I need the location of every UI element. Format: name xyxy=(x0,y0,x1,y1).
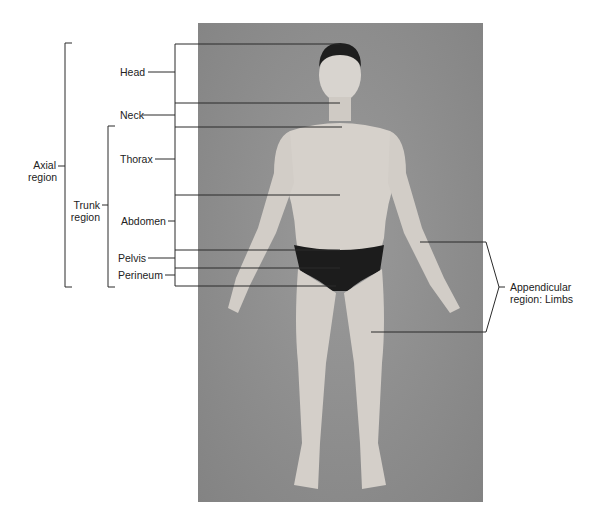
abdomen-label: Abdomen xyxy=(121,215,166,227)
trunk-region-label: Trunk region xyxy=(62,199,100,223)
head-label: Head xyxy=(120,66,145,78)
leader-lines-and-brackets xyxy=(0,0,602,522)
appendicular-region-label: Appendicular region: Limbs xyxy=(510,281,573,305)
perineum-label: Perineum xyxy=(118,269,163,281)
neck-label: Neck xyxy=(120,109,144,121)
appendicular-region-bracket xyxy=(371,242,499,332)
axial-region-bracket xyxy=(65,43,72,287)
pelvis-label: Pelvis xyxy=(118,252,146,264)
trunk-region-bracket xyxy=(108,126,115,287)
thorax-label: Thorax xyxy=(120,153,153,165)
axial-region-label: Axial region xyxy=(28,159,56,183)
